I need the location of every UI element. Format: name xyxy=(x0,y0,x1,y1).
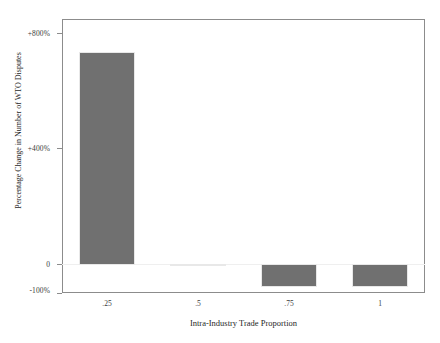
x-tick-label-0: .25 xyxy=(87,299,127,308)
y-axis-title: Percentage Change in Number of WTO Dispu… xyxy=(14,31,23,231)
x-tick-label-2: .75 xyxy=(269,299,309,308)
y-tick-mark-neg100 xyxy=(57,293,62,294)
chart-screenshot: +800% +400% 0 -100% Percentage Change in… xyxy=(0,0,440,343)
bars-layer xyxy=(62,19,425,293)
bar-2 xyxy=(261,264,317,287)
bar-3 xyxy=(352,264,408,287)
x-axis-title: Intra-Industry Trade Proportion xyxy=(62,318,425,328)
bar-0 xyxy=(79,52,135,265)
y-tick-label-neg100: -100% xyxy=(6,286,50,295)
x-tick-label-3: 1 xyxy=(360,299,400,308)
x-tick-label-1: .5 xyxy=(178,299,218,308)
bar-1 xyxy=(170,264,226,266)
y-tick-label-0: 0 xyxy=(6,260,50,269)
